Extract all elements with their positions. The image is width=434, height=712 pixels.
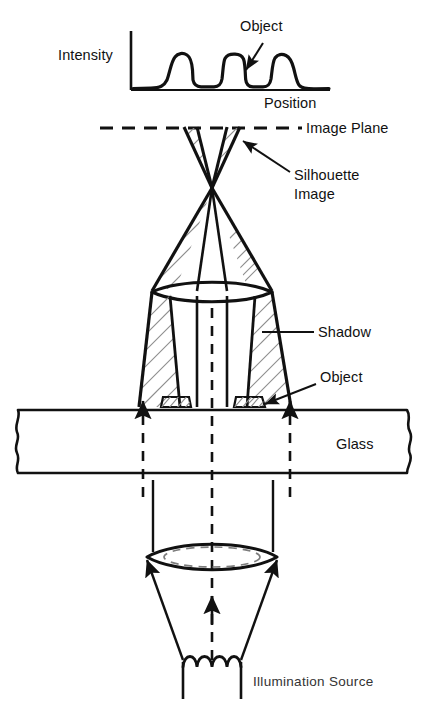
silhouette-label-line1: Silhouette <box>294 167 360 183</box>
upper-cone-right-edge <box>212 188 272 291</box>
object-label: Object <box>320 369 363 385</box>
upper-cone-left-edge <box>152 188 212 291</box>
illumination-group: Illumination Source <box>147 560 374 699</box>
intensity-plot-group: Intensity Position Object <box>58 18 330 111</box>
optical-diagram-figure: Intensity Position Object Image Plane <box>0 0 434 712</box>
plot-x-axis-label: Position <box>264 95 316 111</box>
plot-object-label: Object <box>240 18 283 34</box>
illumination-ray-left <box>147 560 183 660</box>
shadow-inner-right-edge <box>247 296 255 407</box>
silhouette-label-line2: Image <box>294 186 335 202</box>
optics-schematic-svg: Intensity Position Object Image Plane <box>0 0 434 712</box>
shadow-outer-left-edge <box>139 292 152 407</box>
shadow-region-group: Shadow <box>134 288 371 408</box>
plot-object-leader-arrow <box>246 43 263 70</box>
silhouette-leader-arrow <box>243 141 290 172</box>
objects-on-glass-group: Object <box>160 369 363 409</box>
glass-label: Glass <box>336 436 374 452</box>
image-plane-label: Image Plane <box>306 120 389 136</box>
intensity-curve <box>133 53 329 88</box>
illumination-ray-right <box>241 560 277 660</box>
plot-y-axis-label: Intensity <box>58 47 114 63</box>
image-plane-group: Image Plane <box>100 120 389 136</box>
silhouette-image-group: Silhouette Image <box>160 100 360 202</box>
shadow-label: Shadow <box>318 324 371 340</box>
glass-slab-group: Glass <box>16 410 411 473</box>
shadow-inner-left-edge <box>170 296 180 407</box>
shadow-outer-right-edge <box>272 292 291 407</box>
illumination-source-label: Illumination Source <box>253 674 374 689</box>
